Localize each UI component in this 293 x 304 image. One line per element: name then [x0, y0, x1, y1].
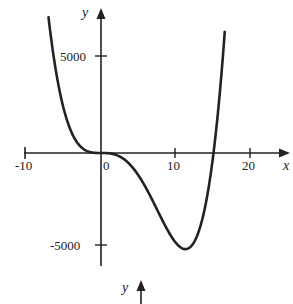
tick-label-0: 0 [103, 158, 110, 173]
tick-label-10: 10 [167, 158, 180, 173]
tick-label-m10: -10 [15, 158, 32, 173]
x-axis-label: x [282, 158, 290, 173]
tick-label-5000: 5000 [60, 49, 86, 64]
y-axis-arrow-icon [97, 8, 106, 19]
tick-label-20: 20 [242, 158, 255, 173]
tick-label-m5000: -5000 [50, 238, 80, 253]
second-y-axis-label: y [120, 280, 129, 295]
chart: y x 5000 -5000 -10 0 10 20 y [0, 0, 293, 304]
y-axis-label: y [80, 5, 89, 20]
x-axis-arrow-icon [279, 149, 290, 158]
